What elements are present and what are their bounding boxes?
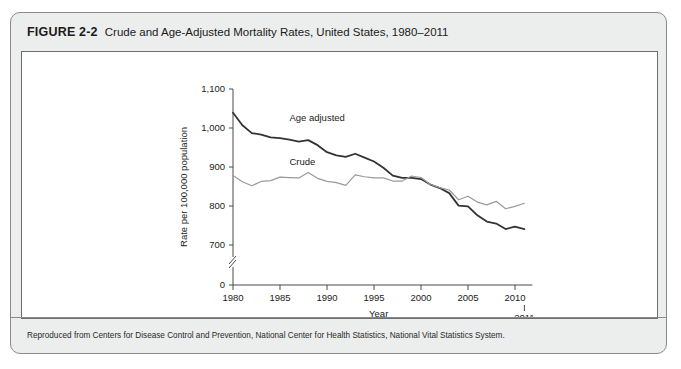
figure-title: Crude and Age-Adjusted Mortality Rates, … <box>105 26 449 38</box>
svg-text:2005: 2005 <box>457 292 478 303</box>
y-axis-title: Rate per 100,000 population <box>178 127 189 247</box>
figure-source-text: Reproduced from Centers for Disease Cont… <box>27 331 505 340</box>
figure-card: FIGURE 2-2 Crude and Age-Adjusted Mortal… <box>10 12 667 354</box>
y-axis-ticks: 07008009001,0001,100 <box>201 83 233 290</box>
svg-text:2000: 2000 <box>410 292 431 303</box>
chart-plot-area: 07008009001,0001,100Rate per 100,000 pop… <box>21 51 658 319</box>
series-label-crude: Crude <box>289 156 315 167</box>
figure-number: FIGURE 2-2 <box>27 25 98 39</box>
svg-text:1,000: 1,000 <box>201 122 225 133</box>
svg-text:700: 700 <box>209 239 225 250</box>
chart-axes <box>229 89 532 285</box>
svg-text:1985: 1985 <box>269 292 290 303</box>
series-label-age-adjusted: Age adjusted <box>289 112 344 123</box>
svg-text:0: 0 <box>220 279 225 290</box>
series-line-crude <box>233 172 524 208</box>
figure-header: FIGURE 2-2 Crude and Age-Adjusted Mortal… <box>11 13 666 51</box>
figure-source-footer: Reproduced from Centers for Disease Cont… <box>11 317 666 353</box>
svg-text:800: 800 <box>209 200 225 211</box>
svg-text:900: 900 <box>209 161 225 172</box>
svg-text:1980: 1980 <box>222 292 243 303</box>
svg-text:1995: 1995 <box>363 292 384 303</box>
series-line-age-adjusted <box>233 113 524 229</box>
mortality-rate-line-chart: 07008009001,0001,100Rate per 100,000 pop… <box>22 52 657 318</box>
svg-text:1990: 1990 <box>316 292 337 303</box>
svg-text:1,100: 1,100 <box>201 83 225 94</box>
svg-text:2010: 2010 <box>504 292 525 303</box>
